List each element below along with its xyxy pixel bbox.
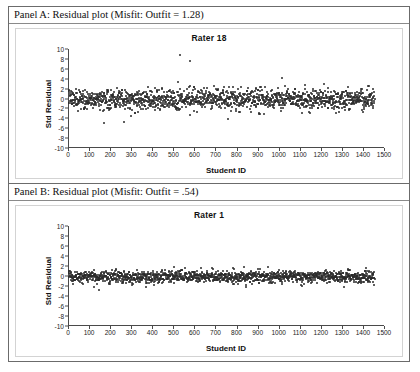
scatter-point [206, 87, 208, 89]
scatter-point [366, 89, 368, 91]
scatter-point [121, 92, 123, 94]
x-tick-mark [68, 148, 69, 151]
scatter-point [235, 108, 237, 110]
scatter-point [231, 272, 233, 274]
x-tick-label: 500 [168, 329, 179, 336]
y-tick-mark [65, 306, 68, 307]
scatter-point [222, 270, 224, 272]
scatter-point [209, 280, 211, 282]
y-tick-mark [65, 128, 68, 129]
scatter-point [122, 282, 124, 284]
x-tick-label: 1000 [271, 151, 285, 158]
scatter-point [131, 109, 133, 111]
scatter-point [301, 95, 303, 97]
scatter-point [164, 269, 166, 271]
scatter-point [264, 86, 266, 88]
scatter-point [327, 91, 329, 93]
scatter-point [137, 111, 139, 113]
scatter-point-outlier [173, 266, 175, 268]
scatter-point [302, 279, 304, 281]
scatter-point [309, 112, 311, 114]
scatter-point [125, 282, 127, 284]
scatter-point [373, 95, 375, 97]
scatter-point-outlier [301, 112, 303, 114]
x-tick-label: 800 [231, 329, 242, 336]
scatter-point [281, 283, 283, 285]
scatter-point [194, 88, 196, 90]
panel-b-y-axis-label: Std Residual [44, 257, 53, 305]
scatter-point [237, 88, 239, 90]
scatter-point [145, 108, 147, 110]
y-tick-mark [65, 316, 68, 317]
scatter-point [173, 92, 175, 94]
scatter-point [159, 109, 161, 111]
x-tick-mark [363, 326, 364, 329]
scatter-point [138, 90, 140, 92]
x-tick-mark [215, 148, 216, 151]
x-tick-mark [237, 326, 238, 329]
scatter-point [173, 282, 175, 284]
scatter-point [330, 91, 332, 93]
y-tick-mark [65, 98, 68, 99]
x-tick-label: 1000 [271, 329, 285, 336]
scatter-point [362, 111, 364, 113]
x-tick-mark [279, 148, 280, 151]
scatter-point [116, 87, 118, 89]
scatter-point [223, 86, 225, 88]
x-tick-mark [342, 326, 343, 329]
scatter-point [142, 108, 144, 110]
x-tick-label: 1200 [314, 329, 328, 336]
x-tick-mark [300, 326, 301, 329]
y-tick-mark [65, 296, 68, 297]
scatter-point [337, 92, 339, 94]
scatter-point [344, 109, 346, 111]
x-tick-label: 1300 [335, 329, 349, 336]
scatter-point [346, 104, 348, 106]
scatter-point [351, 92, 353, 94]
x-tick-label: 1500 [377, 329, 391, 336]
scatter-point [237, 97, 239, 99]
scatter-point [183, 90, 185, 92]
scatter-point-outlier [281, 77, 283, 79]
scatter-point [184, 267, 186, 269]
scatter-point [285, 102, 287, 104]
scatter-point [199, 280, 201, 282]
scatter-point [247, 87, 249, 89]
scatter-point [191, 92, 193, 94]
scatter-point [76, 92, 78, 94]
x-tick-label: 200 [105, 151, 116, 158]
scatter-point [158, 89, 160, 91]
scatter-point [374, 98, 376, 100]
x-tick-label: 900 [252, 151, 263, 158]
scatter-point [139, 281, 141, 283]
scatter-point [303, 283, 305, 285]
scatter-point [372, 281, 374, 283]
panel-a-x-axis-label: Student ID [68, 166, 384, 175]
panel-b: Panel B: Residual plot (Misfit: Outfit =… [9, 184, 409, 361]
y-tick-mark [65, 236, 68, 237]
scatter-point [368, 85, 370, 87]
x-tick-mark [68, 326, 69, 329]
panel-a-y-axis-line [68, 49, 69, 148]
scatter-point [118, 279, 120, 281]
scatter-point [372, 88, 374, 90]
scatter-point [152, 270, 154, 272]
scatter-point-outlier [130, 115, 132, 117]
panel-b-plot-area: 1086420-2-4-6-8-100100200300400500600700… [68, 226, 384, 326]
scatter-point [167, 99, 169, 101]
scatter-point [306, 91, 308, 93]
y-tick-mark [65, 78, 68, 79]
scatter-point [260, 86, 262, 88]
panel-b-chart-title: Rater 1 [16, 210, 402, 220]
x-tick-label: 1200 [314, 151, 328, 158]
scatter-point [153, 284, 155, 286]
scatter-point [170, 281, 172, 283]
scatter-point [263, 113, 265, 115]
scatter-point-outlier [177, 81, 179, 83]
scatter-point [292, 281, 294, 283]
scatter-point [132, 283, 134, 285]
scatter-point [271, 89, 273, 91]
x-tick-label: 600 [189, 329, 200, 336]
scatter-point [220, 107, 222, 109]
scatter-point [106, 93, 108, 95]
